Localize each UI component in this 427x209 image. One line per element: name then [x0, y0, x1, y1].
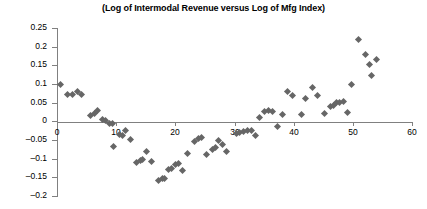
data-point — [78, 91, 85, 98]
data-point — [274, 123, 281, 130]
data-point — [373, 56, 380, 63]
data-point — [127, 136, 134, 143]
data-point — [368, 72, 375, 79]
x-tick-label: 60 — [400, 127, 424, 137]
y-axis-line — [57, 28, 58, 197]
x-tick-mark — [353, 122, 354, 126]
data-point — [366, 61, 373, 68]
x-tick-mark — [116, 122, 117, 126]
y-tick-mark — [52, 177, 57, 178]
data-point — [184, 150, 191, 157]
x-tick-mark — [235, 122, 236, 126]
x-tick-mark — [294, 122, 295, 126]
x-tick-label: 20 — [163, 127, 187, 137]
scatter-chart: (Log of Intermodal Revenue versus Log of… — [0, 0, 427, 209]
data-point — [269, 108, 276, 115]
data-point — [203, 151, 210, 158]
y-tick-label: 0.1 — [11, 79, 47, 88]
x-tick-mark — [57, 122, 58, 126]
y-tick-mark — [52, 28, 57, 29]
data-point — [308, 84, 315, 91]
data-point — [179, 167, 186, 174]
data-point — [321, 110, 328, 117]
x-tick-label: 50 — [341, 127, 365, 137]
y-tick-label: –0.05 — [11, 135, 47, 144]
x-tick-label: 40 — [282, 127, 306, 137]
data-point — [279, 111, 286, 118]
data-point — [314, 92, 321, 99]
data-point — [110, 142, 117, 149]
y-tick-label: –0.1 — [11, 154, 47, 163]
data-point — [256, 114, 263, 121]
y-tick-label: 0.2 — [11, 42, 47, 51]
data-point — [57, 81, 64, 88]
y-tick-label: –0.2 — [11, 191, 47, 200]
y-tick-mark — [52, 65, 57, 66]
data-point — [252, 132, 259, 139]
y-tick-mark — [52, 103, 57, 104]
x-tick-label: 0 — [45, 127, 69, 137]
data-point — [362, 51, 369, 58]
data-point — [298, 111, 305, 118]
y-tick-label: 0.25 — [11, 23, 47, 32]
y-tick-label: 0 — [11, 116, 47, 125]
y-tick-mark — [52, 196, 57, 197]
y-tick-label: –0.15 — [11, 172, 47, 181]
x-tick-mark — [412, 122, 413, 126]
data-point — [348, 81, 355, 88]
y-tick-mark — [52, 159, 57, 160]
x-tick-mark — [175, 122, 176, 126]
data-point — [289, 92, 296, 99]
data-point — [355, 36, 362, 43]
data-point — [219, 141, 226, 148]
data-point — [223, 148, 230, 155]
plot-area: 0.250.20.150.10.050–0.05–0.1–0.15–0.2 01… — [0, 0, 427, 209]
data-point — [302, 95, 309, 102]
y-tick-mark — [52, 47, 57, 48]
data-point — [148, 158, 155, 165]
data-point — [161, 175, 168, 182]
data-point — [344, 108, 351, 115]
y-tick-label: 0.05 — [11, 98, 47, 107]
data-point — [143, 148, 150, 155]
y-tick-mark — [52, 140, 57, 141]
y-tick-label: 0.15 — [11, 60, 47, 69]
